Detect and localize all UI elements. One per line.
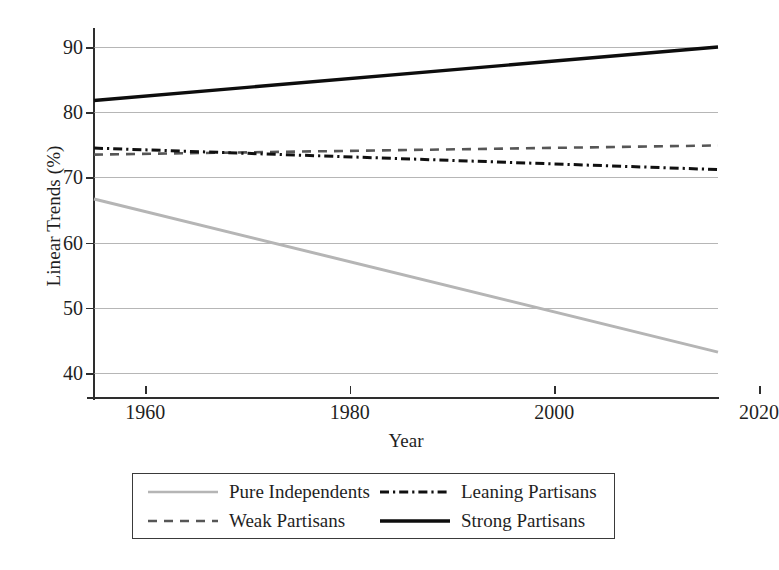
- legend-item-leaning-partisans[interactable]: Leaning Partisans: [365, 482, 614, 501]
- y-tick-label: 60: [63, 233, 83, 253]
- y-tick-label: 90: [63, 37, 83, 57]
- series-lines: [94, 34, 718, 386]
- y-tick-mark: [86, 243, 94, 245]
- plot-area: 405060708090 1960198020002020: [94, 34, 718, 386]
- x-tick-label-1960: 1960: [125, 402, 165, 422]
- series-line-pure-independents: [94, 199, 718, 352]
- y-tick-mark: [86, 47, 94, 49]
- x-tick-label-1980: 1980: [330, 402, 370, 422]
- y-tick-label: 70: [63, 167, 83, 187]
- x-tick-mark-2020: [759, 386, 761, 394]
- legend-label: Pure Independents: [229, 482, 370, 501]
- x-tick-label-2000: 2000: [534, 402, 574, 422]
- x-tick-label-2020: 2020: [739, 402, 779, 422]
- y-tick-mark: [86, 112, 94, 114]
- x-axis-title: Year: [94, 430, 718, 452]
- x-axis-line: [87, 397, 719, 399]
- x-tick-mark-2000: [554, 386, 556, 394]
- line-solid-gray-icon: [147, 485, 219, 499]
- series-line-weak-partisans: [94, 145, 718, 154]
- y-tick-mark: [86, 373, 94, 375]
- series-line-strong-partisans: [94, 47, 718, 100]
- line-solid-black-icon: [379, 514, 451, 528]
- x-tick-mark-1980: [350, 386, 352, 394]
- legend-item-weak-partisans[interactable]: Weak Partisans: [133, 511, 365, 530]
- y-tick-label: 40: [63, 363, 83, 383]
- legend-box: Pure Independents Leaning Partisans Weak…: [132, 473, 615, 539]
- legend-label: Weak Partisans: [229, 511, 345, 530]
- y-tick-label: 80: [63, 102, 83, 122]
- y-tick-mark: [86, 177, 94, 179]
- y-tick-label: 50: [63, 298, 83, 318]
- y-axis-title: Linear Trends (%): [43, 86, 65, 346]
- line-dashed-gray-icon: [147, 514, 219, 528]
- legend-item-strong-partisans[interactable]: Strong Partisans: [365, 511, 614, 530]
- y-tick-mark: [86, 308, 94, 310]
- legend-grid: Pure Independents Leaning Partisans Weak…: [133, 474, 614, 538]
- legend-label: Leaning Partisans: [461, 482, 597, 501]
- line-dashdot-black-icon: [379, 485, 451, 499]
- legend-item-pure-independents[interactable]: Pure Independents: [133, 482, 365, 501]
- x-tick-mark-1960: [145, 386, 147, 394]
- legend-label: Strong Partisans: [461, 511, 585, 530]
